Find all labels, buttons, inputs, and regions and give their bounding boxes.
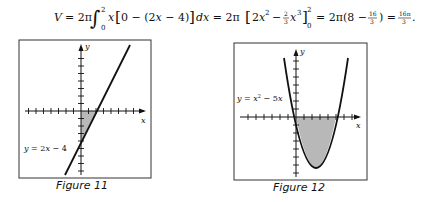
figure-11-caption: Figure 11	[56, 179, 108, 192]
figure-12-y-label: y	[299, 47, 305, 56]
figure-12-x-label: x	[356, 121, 361, 130]
x-arrow-icon	[139, 109, 146, 114]
x-arrow-icon	[354, 115, 361, 120]
figure-11-graph: y x y = 2x − 4 y x y =	[0, 0, 433, 202]
figure-12-caption: Figure 12	[273, 181, 325, 194]
figure-11-function-label: y = 2x − 4	[23, 144, 67, 153]
figure-11-x-label: x	[141, 116, 146, 125]
figure-12-function-label: y = x2 − 5x	[236, 93, 283, 103]
figure-11-line-curve	[65, 45, 130, 175]
y-arrow-icon	[79, 44, 84, 51]
figure-12-shaded-region	[296, 117, 336, 167]
figure-11-frame	[19, 40, 151, 178]
y-arrow-icon	[294, 49, 299, 56]
figure-11-y-label: y	[84, 42, 90, 51]
